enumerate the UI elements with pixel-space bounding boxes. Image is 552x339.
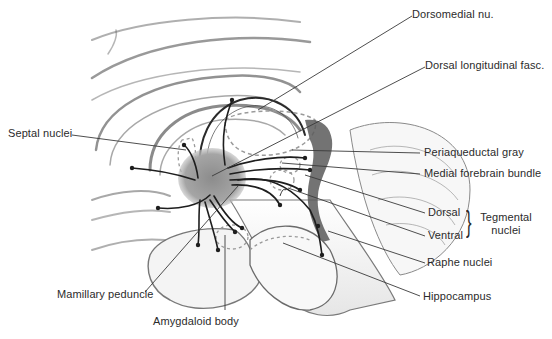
brace-icon: } <box>466 207 472 237</box>
label-amygdaloid-body: Amygdaloid body <box>153 315 239 328</box>
label-nuclei: nuclei <box>474 224 538 237</box>
leader-septal <box>72 135 186 150</box>
label-dorsal-longitudinal-fasciculus: Dorsal longitudinal fasc. <box>425 59 544 72</box>
label-septal-nuclei: Septal nuclei <box>8 127 72 140</box>
label-medial-forebrain-bundle: Medial forebrain bundle <box>424 167 541 180</box>
label-periaqueductal-gray: Periaqueductal gray <box>424 146 524 159</box>
label-dorsomedial-nucleus: Dorsomedial nu. <box>412 8 494 21</box>
label-dorsal: Dorsal <box>428 206 460 219</box>
label-raphe-nuclei: Raphe nuclei <box>427 256 492 269</box>
label-ventral: Ventral <box>428 229 463 242</box>
label-tegmental: Tegmental <box>474 211 538 224</box>
diagram-stage: Dorsomedial nu. Dorsal longitudinal fasc… <box>0 0 552 339</box>
label-mamillary-peduncle: Mamillary peduncle <box>57 288 154 301</box>
leader-dorsomedial <box>258 16 412 110</box>
dorsomedial-outline <box>225 111 316 155</box>
ventral-tegmental-outline <box>270 170 294 190</box>
dorsal-tegmental-outline <box>280 157 300 173</box>
label-hippocampus: Hippocampus <box>423 290 491 303</box>
temporal-lobe <box>148 229 260 309</box>
